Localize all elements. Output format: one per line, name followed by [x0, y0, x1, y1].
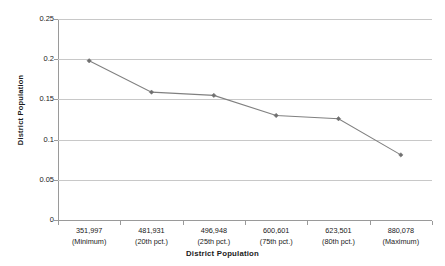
x-tick-label-qualifier: (Maximum): [370, 237, 432, 248]
x-tick-label: 481,931(20th pct.): [120, 226, 182, 247]
x-tick-mark: [370, 221, 371, 225]
data-point-marker: [212, 93, 216, 97]
x-tick-label: 351,997(Minimum): [58, 226, 120, 247]
y-axis-title: District Population: [14, 0, 28, 220]
series-markers: [87, 59, 403, 157]
x-tick-label-value: 351,997: [58, 226, 120, 237]
y-tick-label: 0.1: [14, 136, 54, 144]
plot-area: [58, 19, 432, 220]
y-tick-label-wrap: 0.15: [10, 95, 54, 103]
line-chart: District Population 00.050.10.150.20.25 …: [0, 0, 445, 266]
y-tick-label-wrap: 0.1: [10, 136, 54, 144]
x-tick-mark: [58, 221, 59, 225]
x-tick-mark: [307, 221, 308, 225]
y-tick-label: 0.05: [14, 176, 54, 184]
series-line: [89, 61, 401, 155]
x-tick-label: 496,948(25th pct.): [183, 226, 245, 247]
x-tick-label-qualifier: (75th pct.): [245, 237, 307, 248]
y-tick-label-wrap: 0.25: [10, 15, 54, 23]
series-svg: [58, 19, 432, 220]
x-tick-label-qualifier: (Minimum): [58, 237, 120, 248]
x-tick-label: 623,501(80th pct.): [307, 226, 369, 247]
x-tick-label-value: 880,078: [370, 226, 432, 237]
x-tick-label-value: 496,948: [183, 226, 245, 237]
y-tick-label: 0.15: [14, 95, 54, 103]
x-tick-mark: [183, 221, 184, 225]
x-tick-label: 880,078(Maximum): [370, 226, 432, 247]
data-point-marker: [399, 153, 403, 157]
x-tick-mark: [120, 221, 121, 225]
x-tick-label-qualifier: (25th pct.): [183, 237, 245, 248]
data-point-marker: [149, 90, 153, 94]
y-tick-label-wrap: 0.05: [10, 176, 54, 184]
y-tick-label: 0.25: [14, 15, 54, 23]
x-tick-label-qualifier: (80th pct.): [307, 237, 369, 248]
data-point-marker: [274, 113, 278, 117]
x-tick-label: 600,601(75th pct.): [245, 226, 307, 247]
y-tick-label: 0: [14, 216, 54, 224]
y-tick-label-wrap: 0: [10, 216, 54, 224]
x-axis-title: District Population: [0, 249, 445, 258]
y-tick-label: 0.2: [14, 55, 54, 63]
x-tick-label-value: 600,601: [245, 226, 307, 237]
x-tick-label-qualifier: (20th pct.): [120, 237, 182, 248]
data-point-marker: [336, 116, 340, 120]
x-tick-label-value: 481,931: [120, 226, 182, 237]
x-tick-mark: [245, 221, 246, 225]
x-tick-label-value: 623,501: [307, 226, 369, 237]
y-tick-label-wrap: 0.2: [10, 55, 54, 63]
x-tick-mark: [432, 221, 433, 225]
data-point-marker: [87, 59, 91, 63]
